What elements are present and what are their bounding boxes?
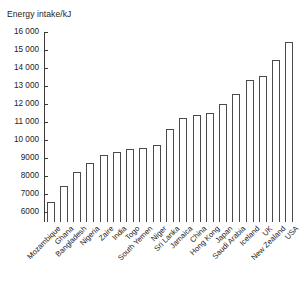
bar <box>139 148 147 222</box>
bar <box>179 118 187 222</box>
y-axis-title: Energy intake/kJ <box>7 9 71 19</box>
x-axis-labels: MozambiqueGhanaBangladeshNigeriaZaireInd… <box>44 224 296 290</box>
y-tick-label: 14 000 <box>14 63 39 72</box>
bar-chart-figure: Energy intake/kJ 16 00015 00014 00013 00… <box>0 0 305 291</box>
bar <box>153 145 161 222</box>
bar-series <box>44 32 296 222</box>
y-tick-label: 15 000 <box>14 45 39 54</box>
bar <box>219 104 227 222</box>
y-tick-label: 6000 <box>21 207 39 216</box>
bar <box>246 80 254 222</box>
bar <box>193 115 201 222</box>
y-tick-label: 13 000 <box>14 81 39 90</box>
y-tick-label: 8000 <box>21 171 39 180</box>
bar <box>60 186 68 222</box>
y-tick-label: 10 000 <box>14 135 39 144</box>
y-tick-label: 7000 <box>21 189 39 198</box>
bar <box>259 76 267 222</box>
y-tick-label: 9000 <box>21 153 39 162</box>
bar <box>166 129 174 222</box>
x-tick-label: USA <box>283 224 300 241</box>
bar <box>232 94 240 222</box>
bar <box>113 152 121 222</box>
y-tick-label: 11 000 <box>15 117 39 126</box>
bar <box>73 172 81 223</box>
y-tick-label: 12 000 <box>14 99 39 108</box>
bar <box>86 163 94 222</box>
y-tick-label: 16 000 <box>14 27 39 36</box>
bar <box>126 149 134 222</box>
bar <box>285 42 293 222</box>
bar <box>100 155 108 222</box>
bar <box>272 60 280 222</box>
bar <box>47 202 55 222</box>
bar <box>206 113 214 222</box>
